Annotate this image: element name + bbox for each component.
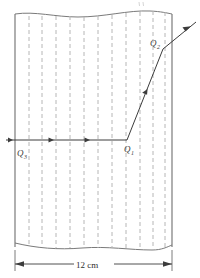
dashed-layer-lines	[29, 11, 165, 250]
emergent-ray-arrowhead	[183, 26, 192, 31]
ray-arrowhead-2	[85, 138, 91, 143]
label-bend-point: Q	[124, 144, 131, 154]
ray-arrowhead-0	[8, 138, 13, 143]
label-bend-point-subscript: 1	[131, 150, 134, 156]
emergent-ray	[163, 22, 196, 49]
dimension-line: 12 cm	[15, 250, 172, 271]
top-stray-mark	[139, 2, 144, 6]
refracted-ray	[127, 49, 163, 140]
refraction-diagram: Q 3 Q 1 Q 2 12 cm	[0, 0, 200, 278]
dimension-label: 12 cm	[76, 260, 98, 270]
label-exit-point: Q	[150, 38, 157, 48]
diagram-canvas: Q 3 Q 1 Q 2 12 cm	[0, 0, 200, 278]
label-entry-point-subscript: 3	[23, 154, 27, 160]
label-exit-point-subscript: 2	[157, 44, 160, 50]
dimension-arrowhead-left	[15, 261, 24, 266]
slab-top-break-edge	[15, 11, 172, 17]
incident-ray	[6, 138, 127, 143]
label-entry-point: Q	[17, 148, 24, 158]
dimension-arrowhead-right	[163, 261, 172, 266]
slab-bottom-break-edge	[15, 243, 172, 250]
ray-arrowhead-1	[49, 138, 55, 143]
